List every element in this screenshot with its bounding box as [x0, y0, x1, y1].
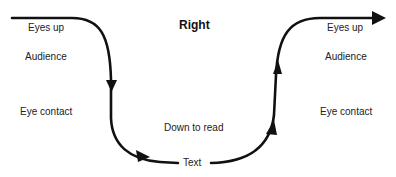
diagram-title: Right: [179, 18, 210, 32]
left-eyes-up-label: Eyes up: [28, 22, 64, 34]
down-to-read-label: Down to read: [164, 122, 223, 134]
right-audience-label: Audience: [325, 51, 367, 63]
left-descending-path: [12, 18, 178, 163]
right-eyes-up-label: Eyes up: [327, 22, 363, 34]
arrow-right-icon: [372, 11, 386, 25]
left-eye-contact-label: Eye contact: [20, 106, 72, 118]
left-audience-label: Audience: [25, 51, 67, 63]
eye-contact-flow-diagram: Right Eyes up Audience Eye contact Down …: [0, 0, 396, 177]
text-label: Text: [183, 157, 201, 169]
arrow-down-icon: [106, 80, 117, 92]
arrow-up-icon: [273, 60, 282, 74]
right-eye-contact-label: Eye contact: [320, 106, 372, 118]
right-ascending-path: [211, 18, 378, 163]
